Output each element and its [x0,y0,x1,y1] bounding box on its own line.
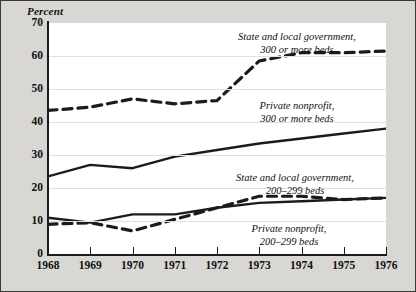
y-tick-label-30: 30 [3,149,43,161]
x-tick-mark-1976 [386,247,387,254]
series-label-line2: 200–299 beds [215,185,375,198]
y-tick-label-20: 20 [3,182,43,194]
series-label-line1: State and local government, [217,31,377,44]
series-line-1 [48,129,386,177]
series-line-3 [48,198,386,223]
y-tick-label-60: 60 [3,50,43,62]
x-tick-label-1975: 1975 [332,259,355,271]
series-label-private-nonprofit-300: Private nonprofit, 300 or more beds [227,100,367,126]
x-tick-label-1973: 1973 [248,259,271,271]
x-tick-label-1974: 1974 [290,259,313,271]
gridline-50 [48,89,386,90]
x-tick-label-1969: 1969 [79,259,102,271]
x-tick-mark-1969 [90,247,91,254]
plot-area [48,23,386,254]
series-label-line2: 200–299 beds [219,236,359,249]
series-lines [48,23,386,254]
series-label-state-local-300: State and local government, 300 or more … [217,31,377,57]
x-tick-label-1971: 1971 [163,259,186,271]
x-tick-mark-1972 [217,247,218,254]
y-tick-label-40: 40 [3,116,43,128]
y-tick-label-70: 70 [3,17,43,29]
series-label-line1: State and local government, [215,172,375,185]
series-label-state-local-200: State and local government, 200–299 beds [215,172,375,198]
x-tick-label-1968: 1968 [37,259,60,271]
chart-figure: Percent 706050403020100 1968196919701971… [0,0,416,292]
y-tick-label-50: 50 [3,83,43,95]
series-label-private-nonprofit-200: Private nonprofit, 200–299 beds [219,223,359,249]
x-tick-mark-1970 [133,247,134,254]
x-axis-line [47,254,387,256]
series-label-line2: 300 or more beds [227,113,367,126]
y-tick-label-10: 10 [3,215,43,227]
x-tick-mark-1971 [175,247,176,254]
series-label-line1: Private nonprofit, [219,223,359,236]
x-tick-label-1972: 1972 [206,259,229,271]
gridline-30 [48,155,386,156]
series-label-line1: Private nonprofit, [227,100,367,113]
x-tick-label-1976: 1976 [375,259,398,271]
y-axis-ticks: 706050403020100 [1,1,43,292]
series-label-line2: 300 or more beds [217,44,377,57]
y-axis-line [47,21,49,256]
x-tick-label-1970: 1970 [121,259,144,271]
gridline-10 [48,221,386,222]
x-tick-mark-1968 [48,247,49,254]
